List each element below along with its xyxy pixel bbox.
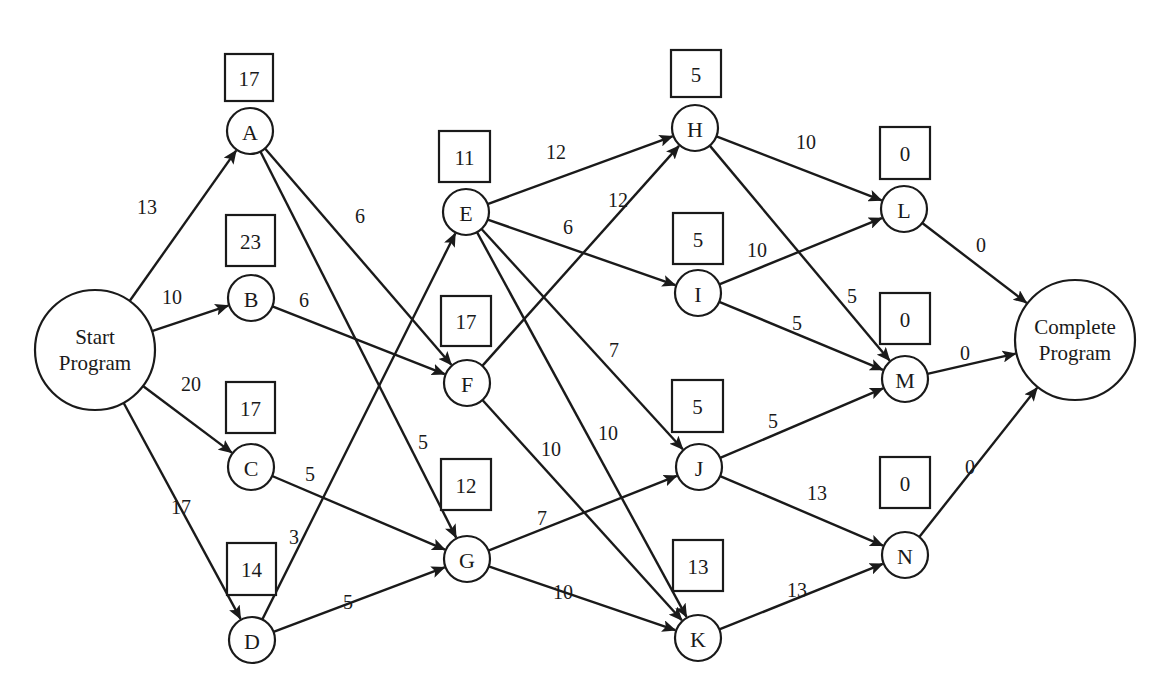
edge-weight-label: 10 [541, 438, 561, 460]
slack-box-E: 11 [439, 131, 490, 182]
node-label: M [895, 368, 915, 393]
edge-weight-label: 5 [418, 431, 428, 453]
edge-weight-label: 10 [553, 581, 573, 603]
slack-box-L: 0 [880, 127, 930, 179]
slack-box-I: 5 [673, 213, 723, 264]
slack-box-M: 0 [880, 293, 930, 344]
edge-weight-label: 3 [289, 526, 299, 548]
node-label: K [690, 627, 706, 652]
edge-E-K [477, 232, 687, 617]
edge-weight-label: 12 [608, 189, 628, 211]
node-H: H [672, 105, 718, 151]
slack-box-F: 17 [441, 296, 491, 346]
node-label: H [687, 117, 703, 142]
edge-B-F [272, 306, 444, 374]
slack-box-N: 0 [880, 457, 930, 508]
edge-weights-layer: 1310201765653512671012107101051055131300… [137, 131, 986, 613]
node-D: D [229, 617, 275, 663]
edge-start-C [143, 386, 232, 453]
edge-G-K [489, 566, 676, 630]
edge-N-complete [919, 388, 1037, 537]
edge-D-E [262, 233, 455, 619]
node-circle [35, 290, 155, 410]
edge-weight-label: 0 [960, 342, 970, 364]
node-label: D [244, 629, 260, 654]
edge-weight-label: 5 [847, 285, 857, 307]
node-I: I [675, 270, 721, 316]
node-E: E [443, 189, 489, 235]
node-label-line: Start [75, 325, 115, 349]
edge-weight-label: 13 [787, 579, 807, 601]
slack-box-J: 5 [672, 380, 723, 432]
slack-value: 13 [688, 555, 709, 579]
edge-G-J [488, 476, 676, 551]
edge-weight-label: 5 [768, 410, 778, 432]
slack-value: 12 [456, 474, 477, 498]
edge-weight-label: 17 [171, 496, 191, 518]
edge-weight-label: 10 [796, 131, 816, 153]
node-M: M [882, 356, 928, 402]
edge-F-K [482, 400, 681, 620]
edge-weight-label: 6 [299, 289, 309, 311]
network-diagram: 1723171411171255513000 StartProgramABCDE… [0, 0, 1165, 698]
slack-box-K: 13 [673, 540, 723, 591]
edge-start-B [152, 306, 228, 331]
edge-A-F [265, 148, 451, 364]
edge-weight-label: 0 [965, 456, 975, 478]
node-A: A [227, 108, 273, 154]
slack-box-C: 17 [226, 382, 275, 433]
node-label: B [244, 287, 259, 312]
edge-weight-label: 7 [609, 339, 619, 361]
edge-weight-label: 5 [792, 312, 802, 334]
node-N: N [882, 532, 928, 578]
node-label: J [695, 456, 704, 481]
node-label: I [694, 282, 701, 307]
edge-L-complete [922, 223, 1026, 303]
edge-M-complete [927, 354, 1015, 374]
edge-I-L [719, 218, 881, 284]
edge-E-I [488, 220, 676, 286]
slack-box-B: 23 [226, 215, 275, 266]
slack-value: 11 [454, 146, 474, 170]
edge-start-A [130, 151, 236, 301]
edge-J-M [720, 388, 883, 458]
node-label: L [897, 198, 910, 223]
edge-weight-label: 6 [355, 205, 365, 227]
node-label: G [459, 548, 475, 573]
node-L: L [881, 186, 927, 232]
slack-value: 17 [456, 310, 477, 334]
slack-value: 5 [691, 63, 702, 87]
edge-D-G [274, 567, 445, 631]
slack-value: 17 [239, 67, 260, 91]
edge-weight-label: 0 [976, 234, 986, 256]
edge-J-N [720, 476, 883, 546]
slack-value: 14 [241, 558, 263, 582]
slack-boxes-layer: 1723171411171255513000 [225, 50, 930, 595]
edge-weight-label: 7 [537, 507, 547, 529]
node-J: J [676, 444, 722, 490]
node-label: A [242, 120, 258, 145]
node-circle [1015, 280, 1135, 400]
slack-box-A: 17 [225, 54, 273, 101]
node-G: G [444, 536, 490, 582]
node-start: StartProgram [35, 290, 155, 410]
edge-weight-label: 13 [137, 196, 157, 218]
edge-weight-label: 10 [598, 422, 618, 444]
node-label: E [459, 201, 472, 226]
edge-F-H [482, 146, 679, 366]
slack-box-D: 14 [227, 543, 276, 595]
node-label: N [897, 544, 913, 569]
edge-weight-label: 13 [807, 482, 827, 504]
slack-box-H: 5 [671, 50, 721, 97]
edge-weight-label: 20 [181, 373, 201, 395]
node-label: C [244, 456, 259, 481]
slack-value: 23 [240, 230, 261, 254]
node-complete: CompleteProgram [1015, 280, 1135, 400]
node-C: C [228, 444, 274, 490]
edge-weight-label: 5 [343, 591, 353, 613]
node-label-line: Program [59, 351, 131, 375]
edge-weight-label: 10 [162, 286, 182, 308]
edge-weight-label: 6 [563, 216, 573, 238]
slack-value: 0 [900, 472, 911, 496]
slack-box-G: 12 [441, 459, 491, 510]
